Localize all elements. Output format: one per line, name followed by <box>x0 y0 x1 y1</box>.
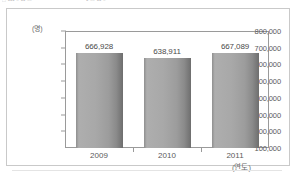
bar-2010[interactable] <box>144 58 191 148</box>
y-tick-mark <box>61 114 66 115</box>
bar-2009[interactable] <box>76 53 123 148</box>
x-tick-mark <box>201 148 202 152</box>
y-tick-mark <box>61 31 66 32</box>
scan-bottom-edge <box>12 170 282 171</box>
y-tick-mark <box>61 47 66 48</box>
x-tick-label-2010: 2010 <box>158 151 176 160</box>
bar-2011[interactable] <box>212 53 259 148</box>
y-tick-label: 400,000 <box>255 93 281 102</box>
scan-artifact-strip: □ ▪▪▪ ▫ ▪▪ ▫▫ ▪ ▫▫ ▪▪ ▫ <box>0 0 294 7</box>
x-tick-label-2011: 2011 <box>226 151 243 160</box>
y-tick-label: 600,000 <box>255 60 281 69</box>
y-tick-label: 100,000 <box>255 144 281 153</box>
bar-value-label: 667,089 <box>221 42 249 51</box>
y-tick-label: 200,000 <box>255 127 281 136</box>
scan-fragment-right: ▪ ▫▫ ▪▪ ▫ <box>86 0 106 3</box>
bar-value-label: 638,911 <box>153 47 181 56</box>
y-tick-label: 700,000 <box>255 43 281 52</box>
scan-fragment-left: □ ▪▪▪ ▫ ▪▪ ▫▫ <box>2 0 32 3</box>
y-tick-mark <box>61 81 66 82</box>
y-tick-mark <box>61 97 66 98</box>
y-tick-mark <box>61 64 66 65</box>
y-tick-label: 500,000 <box>255 77 281 86</box>
y-axis <box>7 31 65 148</box>
bar-value-label: 666,928 <box>85 42 113 51</box>
y-tick-label: 300,000 <box>255 110 281 119</box>
y-tick-label: 800,000 <box>255 27 281 36</box>
x-tick-label-2009: 2009 <box>90 151 108 160</box>
x-tick-mark <box>133 148 134 152</box>
y-tick-mark <box>61 131 66 132</box>
figure-container: (명) (연도) 800,000700,000600,000500,000400… <box>6 8 290 166</box>
